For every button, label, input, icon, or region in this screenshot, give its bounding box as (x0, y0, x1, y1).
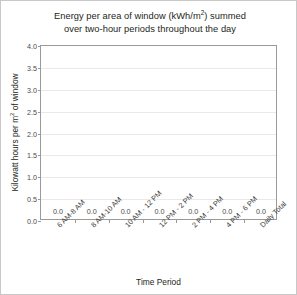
y-axis-tick-label: 4.0 (27, 42, 37, 51)
y-axis-title-text-pre: Kilowatt hours per m (10, 116, 20, 192)
chart-title: Energy per area of window (kWh/m2) summe… (25, 10, 275, 36)
chart-title-text-post: ) summed (204, 11, 246, 21)
bar-slot[interactable]: 0.0 (244, 46, 278, 219)
y-axis-tick-label: 0.5 (27, 195, 37, 204)
chart-title-text-pre: Energy per area of window (kWh/m (54, 11, 201, 21)
y-axis-tick-label: 3.5 (27, 63, 37, 72)
y-axis-tick-label: 1.0 (27, 173, 37, 182)
bar-slot[interactable]: 0.0 (41, 46, 75, 219)
y-axis-tick-label: 2.5 (27, 107, 37, 116)
y-axis-tick-label: 2.0 (27, 129, 37, 138)
chart-title-line-2: over two-hour periods throughout the day (64, 24, 236, 34)
x-axis-tick-labels: 6 AM-8 AM8 AM-10 AM10 AM - 12 PM12 PM - … (40, 220, 277, 274)
y-axis-title: Kilowatt hours per m2 of window (10, 45, 24, 220)
bar-slot[interactable]: 0.0 (109, 46, 143, 219)
y-axis-title-superscript: 2 (9, 113, 15, 116)
bar-slot[interactable]: 0.0 (176, 46, 210, 219)
chart-figure: Energy per area of window (kWh/m2) summe… (0, 0, 297, 295)
bar-slot[interactable]: 0.0 (75, 46, 109, 219)
y-axis-tick-label: 1.5 (27, 151, 37, 160)
y-axis-tick-label: 0.0 (27, 217, 37, 226)
y-axis-title-text-post: of window (10, 73, 20, 112)
chart-title-line-1: Energy per area of window (kWh/m2) summe… (54, 11, 246, 21)
x-axis-title: Time Period (40, 277, 277, 287)
y-axis-tick-label: 3.0 (27, 85, 37, 94)
bar-slot[interactable]: 0.0 (210, 46, 244, 219)
